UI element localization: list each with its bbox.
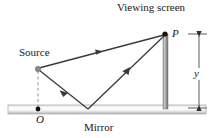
incident-ray-source-to-mirror [39, 70, 88, 109]
point-p-label: P [172, 28, 179, 39]
source-dot [35, 66, 41, 72]
viewing-screen-label: Viewing screen [117, 2, 185, 13]
point-o-dot [36, 107, 41, 112]
distance-y-label: y [194, 68, 199, 79]
direct-ray-source-to-p [39, 35, 164, 68]
viewing-screen-bar [163, 34, 168, 109]
diagram-canvas [0, 0, 215, 138]
mirror-label: Mirror [84, 122, 113, 133]
source-label: Source [19, 47, 50, 58]
point-o-label: O [36, 114, 44, 125]
optics-ray-diagram: Viewing screen Source Mirror P O y [0, 0, 215, 138]
reflected-ray-mirror-to-p [88, 36, 164, 109]
point-p-dot [162, 31, 167, 36]
